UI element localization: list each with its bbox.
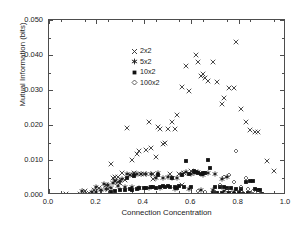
data-point-2x2 xyxy=(136,148,142,154)
y-tick-minor xyxy=(49,143,51,144)
data-point-100x2 xyxy=(241,190,246,194)
data-point-2x2 xyxy=(238,106,244,112)
x-tick-minor-top xyxy=(203,20,204,22)
x-tick-label: 0.4 xyxy=(138,197,148,206)
x-tick-major xyxy=(49,189,50,193)
data-point-10x2 xyxy=(208,165,213,170)
legend-item-100x2: 100x2 xyxy=(129,79,160,87)
x-tick-minor-top xyxy=(156,20,157,22)
data-point-2x2 xyxy=(165,126,171,132)
x-tick-label: 1.0 xyxy=(280,197,290,206)
x-tick-minor-top xyxy=(132,20,133,22)
data-point-10x2 xyxy=(184,158,189,163)
y-tick-minor-right xyxy=(282,143,284,144)
y-tick-minor-right xyxy=(282,108,284,109)
data-point-2x2 xyxy=(214,79,220,85)
data-point-2x2 xyxy=(108,161,114,167)
y-tick-major-right xyxy=(280,125,284,126)
x-tick-major-top xyxy=(144,20,145,24)
y-tick-minor-right xyxy=(282,178,284,179)
data-point-100x2 xyxy=(220,191,225,194)
x-tick-minor-top xyxy=(250,20,251,22)
data-point-100x2 xyxy=(203,190,208,194)
data-point-100x2 xyxy=(248,190,253,194)
data-point-2x2 xyxy=(162,140,168,146)
data-point-2x2 xyxy=(124,125,130,131)
data-point-10x2 xyxy=(170,175,175,180)
data-point-10x2 xyxy=(250,179,255,184)
data-point-10x2 xyxy=(125,175,130,180)
data-point-2x2 xyxy=(153,154,159,160)
data-point-2x2 xyxy=(129,157,135,163)
data-point-2x2 xyxy=(221,95,227,101)
data-point-2x2 xyxy=(179,84,185,90)
legend-item-2x2: 2x2 xyxy=(129,47,160,55)
x-tick-major-top xyxy=(239,20,240,24)
cross-marker-icon xyxy=(129,47,140,55)
data-point-2x2 xyxy=(193,52,199,58)
legend-label-2x2: 2x2 xyxy=(140,47,152,55)
x-tick-label: 0.2 xyxy=(90,197,100,206)
y-tick-minor xyxy=(49,73,51,74)
data-point-2x2 xyxy=(186,88,192,94)
data-point-100x2 xyxy=(212,189,217,194)
data-point-10x2 xyxy=(156,173,161,178)
data-point-10x2 xyxy=(205,158,210,163)
legend-item-5x2: 5x2 xyxy=(129,58,160,66)
data-point-100x2 xyxy=(227,172,232,177)
data-point-100x2 xyxy=(231,180,236,185)
data-point-100x2 xyxy=(243,175,248,180)
data-point-2x2 xyxy=(195,59,201,65)
y-tick-major-right xyxy=(280,55,284,56)
data-point-5x2 xyxy=(212,171,218,177)
y-tick-minor xyxy=(49,178,51,179)
y-tick-minor-right xyxy=(282,20,284,21)
data-point-2x2 xyxy=(174,112,180,118)
x-tick-minor-top xyxy=(108,20,109,22)
data-point-100x2 xyxy=(217,182,222,187)
data-point-2x2 xyxy=(271,168,277,174)
y-tick-minor-right xyxy=(282,73,284,74)
data-point-2x2 xyxy=(243,119,249,125)
legend-label-10x2: 10x2 xyxy=(140,68,156,76)
x-tick-label: 0.6 xyxy=(185,197,195,206)
y-tick-minor xyxy=(49,38,51,39)
y-tick-minor-right xyxy=(282,38,284,39)
data-point-2x2 xyxy=(172,126,178,132)
y-tick-major-right xyxy=(280,160,284,161)
x-tick-major-top xyxy=(191,20,192,24)
data-point-2x2 xyxy=(183,63,189,69)
square-marker-icon xyxy=(129,68,140,76)
data-point-10x2 xyxy=(132,173,137,178)
y-tick-minor xyxy=(49,108,51,109)
data-point-2x2 xyxy=(219,101,225,107)
data-point-2x2 xyxy=(157,126,163,132)
x-axis-title: Connection Concentration xyxy=(48,208,285,217)
x-tick-minor-top xyxy=(274,20,275,22)
y-tick-label: 0.010 xyxy=(3,155,43,164)
data-point-2x2 xyxy=(233,39,239,45)
scatter-plot-figure: 2x2 5x2 10x2 100x2 0.00.20.40 xyxy=(0,0,303,228)
data-point-2x2 xyxy=(231,85,237,91)
x-tick-minor-top xyxy=(227,20,228,22)
legend-label-5x2: 5x2 xyxy=(140,58,152,66)
y-tick-major xyxy=(49,90,53,91)
data-point-100x2 xyxy=(229,190,234,194)
legend-label-100x2: 100x2 xyxy=(140,79,160,87)
x-tick-minor-top xyxy=(85,20,86,22)
x-tick-minor-top xyxy=(61,20,62,22)
data-point-100x2 xyxy=(281,193,285,195)
plot-area: 2x2 5x2 10x2 100x2 xyxy=(48,19,285,194)
data-point-2x2 xyxy=(205,78,211,84)
data-point-2x2 xyxy=(169,119,175,125)
x-tick-label: 0.8 xyxy=(232,197,242,206)
data-point-10x2 xyxy=(189,185,194,190)
data-point-10x2 xyxy=(203,170,208,175)
star-marker-icon xyxy=(129,58,140,66)
legend-item-10x2: 10x2 xyxy=(129,68,160,76)
data-point-100x2 xyxy=(196,188,201,193)
x-tick-minor-top xyxy=(179,20,180,22)
data-point-2x2 xyxy=(148,145,154,151)
data-point-2x2 xyxy=(146,119,152,125)
diamond-marker-icon xyxy=(129,79,140,87)
